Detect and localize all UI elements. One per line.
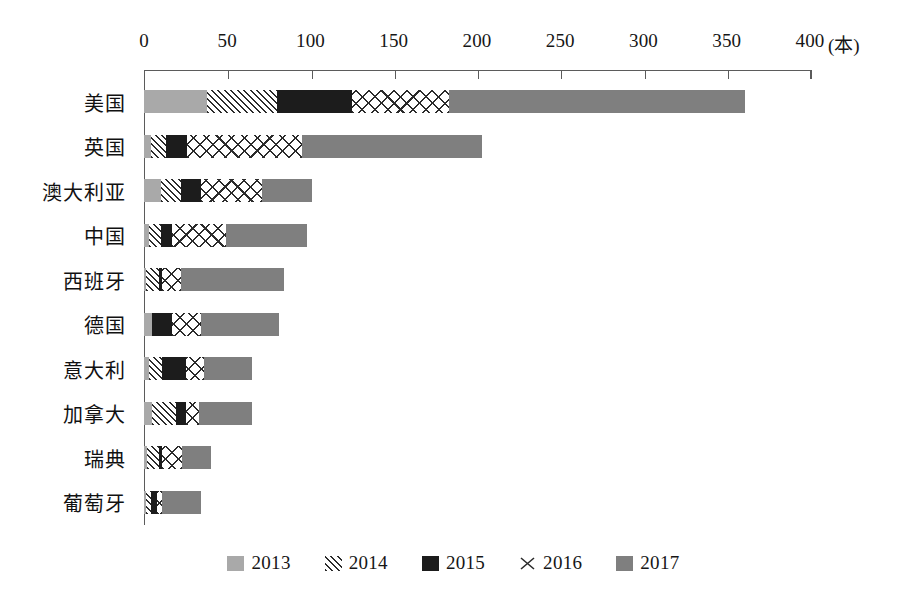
bar-segment-2016 [186, 357, 204, 380]
x-tick-label-250: 250 [546, 30, 575, 52]
x-tick-label-300: 300 [629, 30, 658, 52]
bar-segment-2013 [144, 135, 151, 158]
solid-gray-swatch [616, 556, 633, 571]
bar-segment-2013 [144, 402, 152, 425]
legend-item-2014[interactable]: 2014 [325, 552, 388, 574]
legend-item-2013[interactable]: 2013 [227, 552, 290, 574]
solid-black-swatch [422, 556, 439, 571]
bar-segment-2016 [187, 135, 302, 158]
bar-segment-2017 [262, 179, 312, 202]
bar-segment-2014 [149, 357, 162, 380]
bar-segment-2016 [162, 268, 180, 291]
cross-hatch-swatch [519, 556, 536, 571]
x-axis-unit-label: (本) [828, 30, 860, 57]
x-tick-label-400: 400 [795, 30, 824, 52]
bar-segment-2017 [199, 402, 252, 425]
x-tick-label-50: 50 [218, 30, 237, 52]
y-category-label-2: 澳大利亚 [42, 176, 126, 205]
chart-legend: 20132014201520162017 [0, 552, 907, 574]
legend-item-2015[interactable]: 2015 [422, 552, 485, 574]
y-category-label-4: 西班牙 [63, 265, 126, 294]
legend-label: 2016 [543, 552, 582, 574]
y-category-label-1: 英国 [84, 132, 126, 161]
bar-segment-2016 [162, 446, 182, 469]
solid-light-gray-swatch [227, 556, 244, 571]
bar-segment-2015 [161, 224, 173, 247]
bar-segment-2017 [226, 224, 308, 247]
bar-segment-2017 [181, 268, 284, 291]
legend-label: 2015 [446, 552, 485, 574]
y-category-label-8: 瑞典 [84, 443, 126, 472]
x-tick-label-200: 200 [462, 30, 491, 52]
x-axis-tick [811, 70, 812, 79]
bar-segment-2017 [201, 313, 279, 336]
bar-segment-2016 [201, 179, 263, 202]
bar-segment-2014 [207, 90, 277, 113]
bar-segment-2014 [146, 268, 159, 291]
y-axis: 美国英国澳大利亚中国西班牙德国意大利加拿大瑞典葡萄牙 [0, 70, 136, 525]
bar-segment-2014 [152, 402, 175, 425]
x-tick-label-150: 150 [379, 30, 408, 52]
bar-segment-2014 [149, 224, 161, 247]
bar-segment-2014 [151, 135, 166, 158]
bar-segment-2016 [172, 224, 225, 247]
x-tick-label-100: 100 [296, 30, 325, 52]
bar-segment-2017 [182, 446, 210, 469]
bar-segment-2017 [204, 357, 252, 380]
y-category-label-0: 美国 [84, 87, 126, 116]
y-category-label-5: 德国 [84, 310, 126, 339]
y-category-label-3: 中国 [84, 221, 126, 250]
bar-segment-2016 [172, 313, 200, 336]
bar-segment-2013 [144, 90, 207, 113]
y-category-label-9: 葡萄牙 [63, 488, 126, 517]
bar-segment-2015 [151, 491, 158, 514]
bar-segment-2015 [152, 313, 172, 336]
bar-segment-2016 [186, 402, 199, 425]
bar-segment-2014 [147, 446, 159, 469]
bar-segment-2015 [176, 402, 186, 425]
legend-label: 2017 [640, 552, 679, 574]
bar-segment-2015 [181, 179, 201, 202]
legend-label: 2014 [349, 552, 388, 574]
bar-segment-2013 [144, 179, 161, 202]
bar-segment-2015 [166, 135, 188, 158]
bar-segment-2017 [449, 90, 745, 113]
bar-segment-2015 [277, 90, 352, 113]
y-category-label-7: 加拿大 [63, 399, 126, 428]
bar-chart: 050100150200250300350400(本) 美国英国澳大利亚中国西班… [0, 0, 907, 611]
legend-item-2016[interactable]: 2016 [519, 552, 582, 574]
bar-segment-2015 [162, 357, 185, 380]
bars-layer [144, 70, 810, 525]
x-tick-label-350: 350 [712, 30, 741, 52]
bar-segment-2017 [162, 491, 200, 514]
bar-segment-2014 [161, 179, 181, 202]
bar-segment-2017 [302, 135, 482, 158]
legend-item-2017[interactable]: 2017 [616, 552, 679, 574]
legend-label: 2013 [251, 552, 290, 574]
y-category-label-6: 意大利 [63, 354, 126, 383]
x-tick-label-0: 0 [139, 30, 149, 52]
bar-segment-2013 [144, 313, 152, 336]
x-axis: 050100150200250300350400(本) [0, 30, 907, 62]
bar-segment-2016 [352, 90, 449, 113]
diagonal-hatch-swatch [325, 556, 342, 571]
